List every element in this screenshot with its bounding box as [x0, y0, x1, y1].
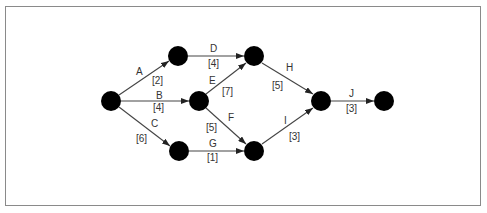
label-d-name: D — [210, 43, 217, 54]
label-b-duration: [4] — [153, 102, 164, 113]
label-c-duration: [6] — [136, 133, 147, 144]
label-h-duration: [5] — [272, 80, 283, 91]
label-a-name: A — [136, 66, 143, 77]
node-8 — [374, 91, 394, 111]
label-a-duration: [2] — [152, 75, 163, 86]
node-4 — [244, 46, 264, 66]
label-h-name: H — [286, 62, 293, 73]
label-g-duration: [1] — [207, 152, 218, 163]
label-f-name: F — [228, 112, 234, 123]
node-5 — [169, 141, 189, 161]
label-j-name: J — [349, 88, 354, 99]
label-d-duration: [4] — [208, 58, 219, 69]
network-diagram: A [2] B [4] C [6] D [4] E [7] F [5] G [1… — [0, 0, 487, 213]
node-6 — [244, 141, 264, 161]
node-7 — [311, 91, 331, 111]
edge-i — [262, 108, 313, 144]
node-1 — [101, 91, 121, 111]
label-e-duration: [7] — [222, 86, 233, 97]
label-j-duration: [3] — [346, 103, 357, 114]
label-g-name: G — [209, 138, 217, 149]
label-f-duration: [5] — [206, 122, 217, 133]
label-b-name: B — [156, 90, 163, 101]
node-2 — [168, 46, 188, 66]
label-c-name: C — [151, 118, 158, 129]
label-i-duration: [3] — [289, 131, 300, 142]
label-e-name: E — [209, 75, 216, 86]
node-3 — [189, 91, 209, 111]
label-i-name: I — [284, 115, 287, 126]
